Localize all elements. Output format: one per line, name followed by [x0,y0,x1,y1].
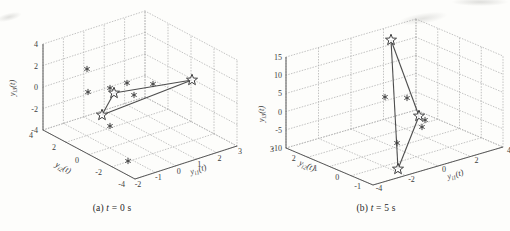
y-tick-label: -1 [354,182,361,191]
x-tick-label: -2 [408,175,415,184]
asterisk-marker [419,124,424,130]
grid-line [416,110,503,147]
tick-labels: -10-50510153210-1-4-2024 [270,53,510,193]
z-tick-label: 2 [34,62,38,71]
caption-b-prefix: (b) [356,203,370,213]
x-axis-title: yi1(t) [188,162,208,178]
grid-line [308,119,438,157]
asterisk-marker [394,140,399,146]
grid-line [330,129,460,167]
asterisk-marker [84,66,89,72]
y-tick-label: -4 [118,180,125,189]
plot-panel-b: -10-50510153210-1-4-2024yi1(t)yi2(t)yi3(… [256,19,510,193]
formation-edge [391,40,419,116]
caption-b: (b) t = 5 s [276,203,476,213]
y-axis [43,130,135,179]
y-tick-label: 0 [335,173,339,182]
x-axis-title: yi1(t) [445,167,465,182]
x-tick-label: -1 [155,173,162,182]
z-axis-title: yi3(t) [7,80,18,98]
y-tick-label: 3 [270,145,274,154]
asterisk-marker [107,85,112,91]
grid-line [89,122,191,155]
data-series [382,34,427,173]
x-axis [135,146,237,179]
y-tick-label: 2 [52,143,56,152]
y-tick-label: 2 [292,154,296,163]
z-tick-label: -5 [275,126,282,135]
figure-canvas: -4-2024420-2-4-2-10123yi1(t)yi2(t)yi3(t)… [0,0,510,231]
x-tick-label: 2 [475,156,479,165]
z-tick-label: -2 [31,105,38,114]
x-axis [373,147,503,185]
formation-edges [391,40,419,169]
z-tick-label: 0 [34,83,38,92]
z-axis-title: yi3(t) [256,106,267,124]
grid-line [125,104,217,153]
x-tick-label: -2 [135,180,142,189]
caption-a-prefix: (a) [93,203,107,213]
grid-line [43,76,145,109]
caption-b-rest: = 5 s [373,203,395,213]
x-tick-label: 2 [218,154,222,163]
grid-line [43,97,145,130]
x-tick-label: 3 [238,147,242,156]
formation-edge [398,116,419,169]
asterisk-marker [107,123,112,129]
grid-lines [43,11,237,179]
x-tick-label: -4 [376,184,383,193]
asterisk-marker [404,95,409,101]
scanned-figure-page: -4-2024420-2-4-2-10123yi1(t)yi2(t)yi3(t)… [0,0,510,231]
grid-line [66,109,168,142]
z-tick-label: 4 [34,40,38,49]
pentagram-marker [186,74,197,84]
pentagram-marker [392,163,403,173]
grid-line [43,54,145,87]
z-tick-label: 15 [274,53,282,62]
formation-edge [391,40,398,169]
follower-outputs-markers [84,66,155,164]
z-tick-label: 10 [274,71,282,80]
y-tick-label: 0 [75,156,79,165]
z-tick-label: 5 [278,89,282,98]
grid-line [43,33,145,66]
plot-panel-a: -4-2024420-2-4-2-10123yi1(t)yi2(t)yi3(t) [7,11,242,189]
grid-line [43,11,145,44]
x-tick-label: 0 [177,167,181,176]
y-tick-label: 4 [29,131,33,140]
y-axis-title: yi2(t) [52,159,73,177]
axis-titles: yi1(t)yi2(t)yi3(t) [256,106,465,183]
pentagram-marker [96,109,107,119]
caption-a: (a) t = 0 s [12,203,212,213]
y-tick-label: -2 [95,168,102,177]
caption-a-rest: = 0 s [109,203,131,213]
z-tick-label: 0 [278,108,282,117]
data-series [84,66,197,164]
asterisk-marker [131,92,136,98]
